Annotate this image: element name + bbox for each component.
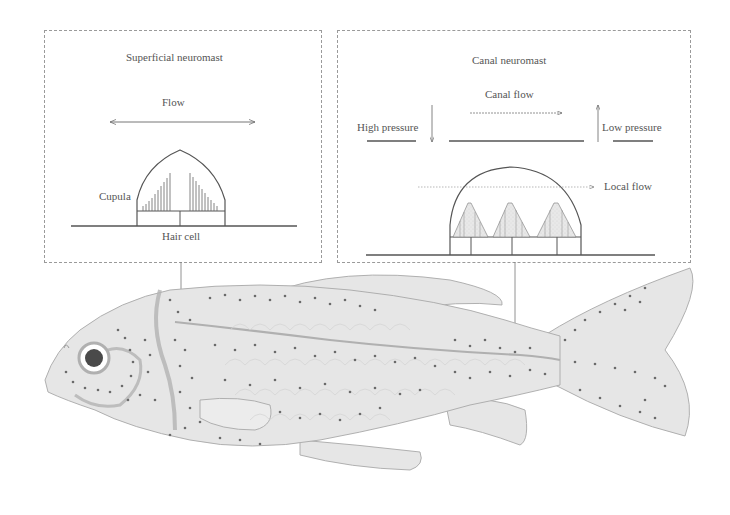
caudal-fin [545, 268, 693, 436]
canal-hair-bundles [453, 203, 576, 237]
pelvic-fin [300, 440, 421, 470]
fish-illustration [45, 268, 693, 470]
eye-pupil [85, 349, 103, 367]
hair-bundles [143, 173, 217, 211]
diagram-canvas [0, 0, 730, 515]
cupula-outline [137, 150, 225, 226]
